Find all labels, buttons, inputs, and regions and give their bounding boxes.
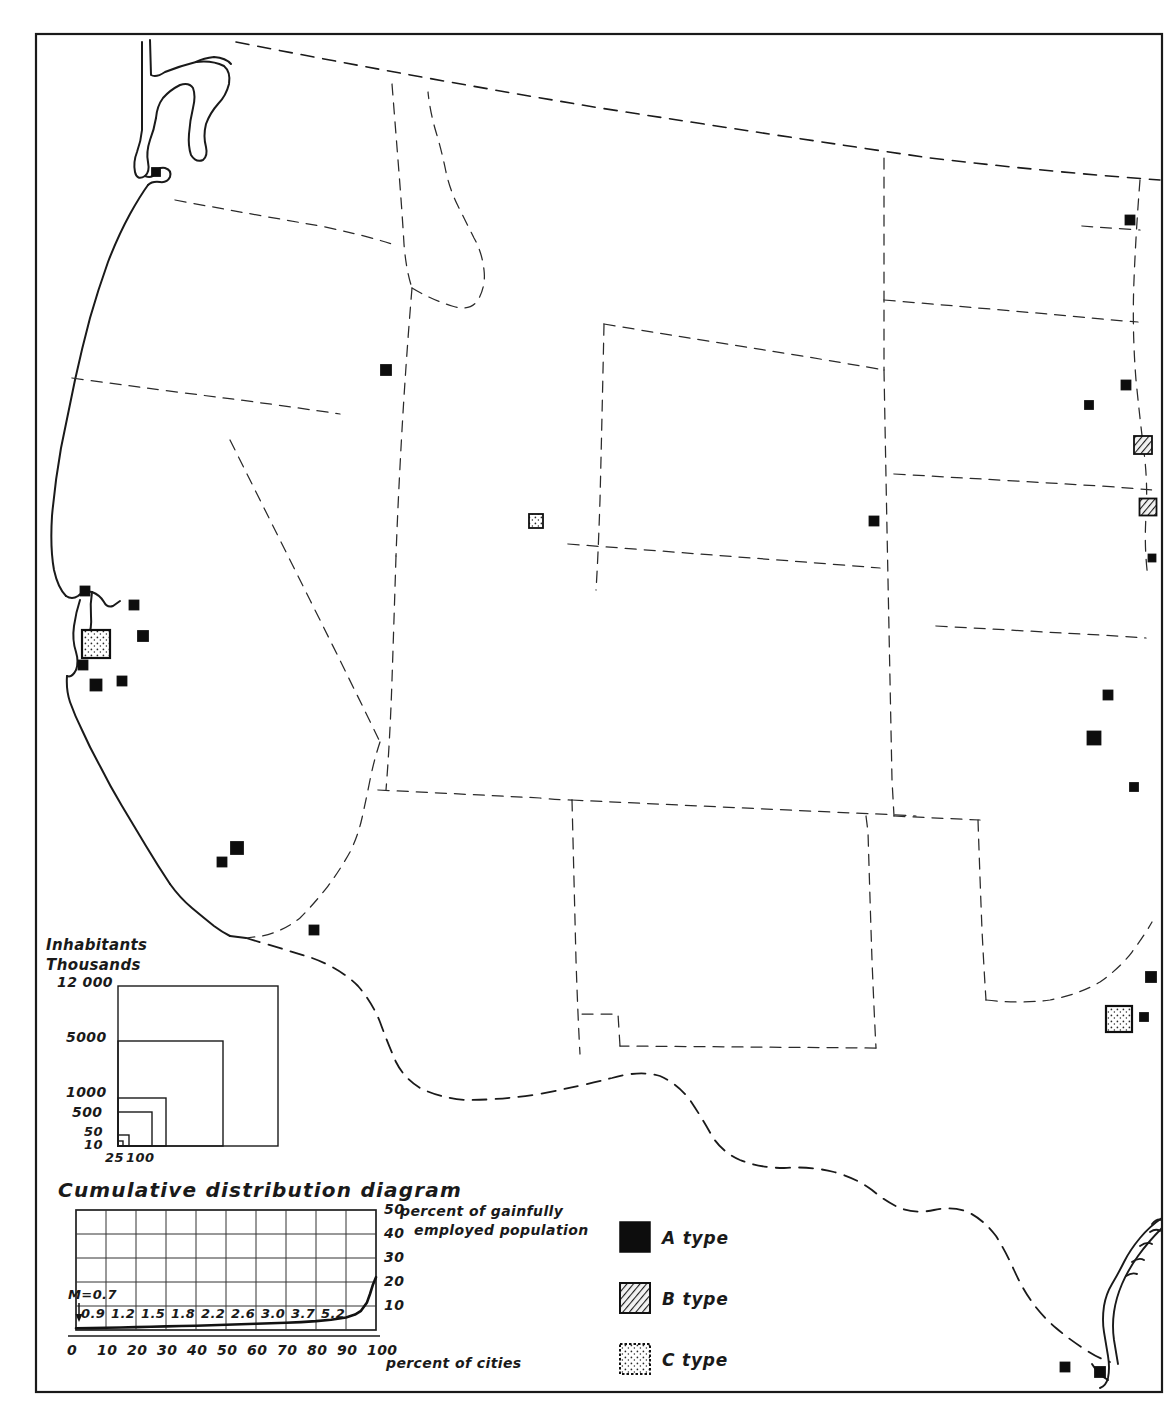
city-symbol-brownsville-b xyxy=(1095,1367,1105,1377)
inhabitants-square-5000 xyxy=(118,1041,223,1146)
cdd-xtick-70: 70 xyxy=(277,1342,297,1358)
symbol-square-a-type xyxy=(1122,381,1131,390)
symbol-square-a-type xyxy=(310,926,319,935)
cdd-xtick-50: 50 xyxy=(217,1342,237,1358)
city-symbol-san-jose xyxy=(79,661,88,670)
symbol-square-b-type xyxy=(1134,436,1152,454)
symbol-square-a-type xyxy=(218,858,227,867)
symbol-square-a-type xyxy=(1149,555,1156,562)
symbol-square-c-type xyxy=(1106,1006,1132,1032)
city-symbol-oklahoma-city xyxy=(1088,732,1101,745)
symbol-square-a-type xyxy=(231,842,243,854)
legend-label-a-type: A type xyxy=(662,1228,729,1248)
inhabitants-label-100: 100 xyxy=(126,1150,154,1165)
cdd-xtick-80: 80 xyxy=(307,1342,327,1358)
cdd-point-label-5: 2.6 xyxy=(231,1306,255,1321)
city-symbol-wichita xyxy=(1104,691,1113,700)
cdd-xtick-30: 30 xyxy=(157,1342,177,1358)
inhabitants-label-25: 25 xyxy=(105,1150,124,1165)
cdd-ylabel-line2: employed population xyxy=(414,1222,589,1238)
symbol-square-a-type xyxy=(79,661,88,670)
cdd-point-label-6: 3.0 xyxy=(261,1306,285,1321)
symbol-square-a-type xyxy=(1140,1013,1148,1021)
symbol-square-a-type xyxy=(381,365,391,375)
symbol-square-a-type xyxy=(138,631,148,641)
inhabitants-scale-legend xyxy=(118,986,278,1146)
cdd-xtick-0: 0 xyxy=(67,1342,77,1358)
cdd-ylabel-line1: percent of gainfully xyxy=(400,1203,563,1219)
symbol-square-a-type xyxy=(118,677,127,686)
national-border-canada xyxy=(236,42,1160,180)
city-symbol-stockton xyxy=(118,677,127,686)
city-symbol-omaha xyxy=(1134,436,1152,454)
city-symbol-reno xyxy=(138,631,148,641)
symbol-square-a-type xyxy=(1061,1363,1070,1372)
symbol-square-a-type xyxy=(1130,783,1138,791)
cdd-ytick-20: 20 xyxy=(384,1273,404,1289)
cdd-xtick-60: 60 xyxy=(247,1342,267,1358)
cdd-xtick-20: 20 xyxy=(127,1342,147,1358)
city-symbol-shreveport xyxy=(1146,972,1156,982)
cdd-annotation-m: M=0.7 xyxy=(68,1287,117,1302)
city-symbol-san-francisco-bay xyxy=(82,630,110,658)
map-figure xyxy=(0,0,1172,1417)
cdd-point-label-8: 5.2 xyxy=(321,1306,345,1321)
figure-canvas: Inhabitants Thousands 12 000 5000 1000 5… xyxy=(0,0,1172,1417)
cdd-ytick-30: 30 xyxy=(384,1249,404,1265)
type-legend-swatches xyxy=(620,1222,650,1374)
legend-label-b-type: B type xyxy=(662,1289,729,1309)
symbol-square-a-type xyxy=(1095,1367,1105,1377)
cdd-point-label-2: 1.5 xyxy=(141,1306,165,1321)
cdd-ytick-40: 40 xyxy=(384,1225,404,1241)
cdd-xtick-10: 10 xyxy=(97,1342,117,1358)
cdd-xtick-40: 40 xyxy=(187,1342,207,1358)
symbol-square-c-type xyxy=(529,514,543,528)
city-symbol-san-diego xyxy=(218,858,227,867)
symbol-square-c-type xyxy=(82,630,110,658)
inhabitants-label-10: 10 xyxy=(84,1137,103,1152)
city-symbol-portland-astoria xyxy=(152,168,160,176)
inhabitants-square-10 xyxy=(118,1141,123,1146)
inhabitants-square-1000 xyxy=(118,1098,166,1146)
city-symbol-boise xyxy=(381,365,391,375)
inhabitants-label-12000: 12 000 xyxy=(57,974,113,990)
cdd-point-label-1: 1.2 xyxy=(111,1306,135,1321)
legend-label-c-type: C type xyxy=(662,1350,728,1370)
inhabitants-title-line1: Inhabitants xyxy=(46,936,147,954)
inhabitants-square-12000 xyxy=(118,986,278,1146)
city-symbol-fresno xyxy=(91,680,102,691)
symbol-square-a-type xyxy=(870,517,879,526)
cdd-point-label-7: 3.7 xyxy=(291,1306,315,1321)
symbol-square-a-type xyxy=(152,168,160,176)
symbol-square-a-type xyxy=(81,587,90,596)
symbol-square-a-type xyxy=(1088,732,1101,745)
cdd-title: Cumulative distribution diagram xyxy=(58,1178,462,1202)
symbol-square-a-type xyxy=(1146,972,1156,982)
city-symbol-sacramento xyxy=(130,601,139,610)
city-symbol-kansas-city xyxy=(1140,499,1157,516)
city-symbol-bakersfield xyxy=(81,587,90,596)
inhabitants-title-line2: Thousands xyxy=(46,956,141,974)
cdd-point-label-4: 2.2 xyxy=(201,1306,225,1321)
legend-swatch-a-type xyxy=(620,1222,650,1252)
city-symbol-rapid-city xyxy=(1085,401,1093,409)
city-symbol-dallas-fort-worth xyxy=(1106,1006,1132,1032)
city-symbol-bismarck xyxy=(1122,381,1131,390)
cdd-ytick-10: 10 xyxy=(384,1297,404,1313)
legend-swatch-b-type xyxy=(620,1283,650,1313)
city-symbol-tucson xyxy=(310,926,319,935)
symbol-square-a-type xyxy=(130,601,139,610)
legend-swatch-c-type xyxy=(620,1344,650,1374)
city-symbol-topeka xyxy=(1149,555,1156,562)
inhabitants-label-1000: 1000 xyxy=(66,1084,107,1100)
city-symbol-denver xyxy=(870,517,879,526)
cdd-point-label-0: 0.9 xyxy=(81,1306,105,1321)
gulf-coastline xyxy=(1092,1218,1162,1388)
cdd-xtick-90: 90 xyxy=(337,1342,357,1358)
cdd-xlabel: percent of cities xyxy=(386,1355,522,1371)
symbol-square-a-type xyxy=(1104,691,1113,700)
symbol-square-b-type xyxy=(1140,499,1157,516)
city-symbol-brownsville-a xyxy=(1061,1363,1070,1372)
coastline xyxy=(51,40,246,938)
city-symbol-billings xyxy=(1126,216,1135,225)
